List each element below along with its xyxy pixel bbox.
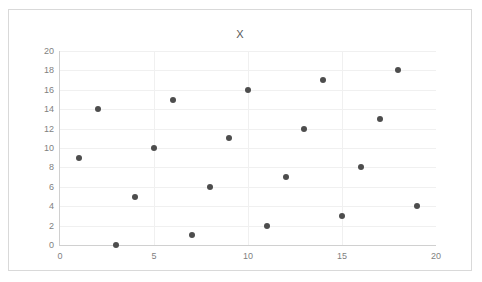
scatter-point[interactable] bbox=[132, 194, 138, 200]
x-tick-label: 5 bbox=[151, 251, 156, 261]
chart-frame: X 02468101214161820 05101520 bbox=[8, 9, 472, 271]
y-tick-label: 14 bbox=[44, 104, 54, 114]
chart-title: X bbox=[9, 28, 471, 40]
y-tick-label: 20 bbox=[44, 46, 54, 56]
plot-area: 02468101214161820 05101520 bbox=[59, 51, 436, 246]
scatter-point[interactable] bbox=[320, 77, 326, 83]
scatter-point[interactable] bbox=[377, 116, 383, 122]
scatter-point[interactable] bbox=[414, 203, 420, 209]
y-tick-label: 10 bbox=[44, 143, 54, 153]
scatter-point[interactable] bbox=[264, 223, 270, 229]
scatter-point[interactable] bbox=[170, 97, 176, 103]
scatter-point[interactable] bbox=[339, 213, 345, 219]
scatter-point[interactable] bbox=[113, 242, 119, 248]
scatter-point[interactable] bbox=[189, 232, 195, 238]
x-tick-label: 0 bbox=[57, 251, 62, 261]
scatter-point[interactable] bbox=[395, 67, 401, 73]
scatter-point[interactable] bbox=[226, 135, 232, 141]
scatter-point[interactable] bbox=[358, 164, 364, 170]
scatter-point[interactable] bbox=[301, 126, 307, 132]
y-tick-label: 16 bbox=[44, 85, 54, 95]
y-tick-label: 0 bbox=[49, 240, 54, 250]
y-tick-label: 12 bbox=[44, 124, 54, 134]
scatter-point[interactable] bbox=[245, 87, 251, 93]
scatter-point[interactable] bbox=[207, 184, 213, 190]
x-tick-label: 15 bbox=[337, 251, 347, 261]
y-tick-label: 2 bbox=[49, 221, 54, 231]
scatter-point[interactable] bbox=[95, 106, 101, 112]
x-tick-label: 20 bbox=[431, 251, 441, 261]
y-tick-label: 6 bbox=[49, 182, 54, 192]
scatter-point[interactable] bbox=[283, 174, 289, 180]
y-tick-label: 18 bbox=[44, 65, 54, 75]
scatter-point[interactable] bbox=[76, 155, 82, 161]
y-tick-label: 4 bbox=[49, 201, 54, 211]
gridline-vertical bbox=[248, 51, 249, 245]
scatter-point[interactable] bbox=[151, 145, 157, 151]
y-tick-label: 8 bbox=[49, 162, 54, 172]
x-tick-label: 10 bbox=[243, 251, 253, 261]
